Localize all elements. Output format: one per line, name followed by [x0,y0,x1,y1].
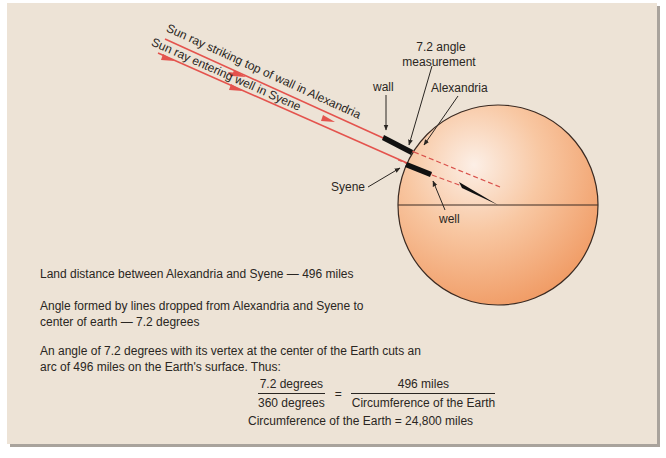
circumference-result: Circumference of the Earth = 24,800 mile… [248,414,473,429]
wall-bar [382,135,413,155]
land-distance-text: Land distance between Alexandria and Sye… [40,267,354,283]
alexandria-label: Alexandria [431,81,488,96]
arc-text: An angle of 7.2 degrees with its vertex … [40,344,421,375]
syene-label: Syene [331,180,365,195]
right-fraction: 496 miles Circumference of the Earth [350,377,497,410]
angle-measurement-label: 7.2 angle measurement [406,40,476,70]
proportion-equation: 7.2 degrees 360 degrees = 496 miles Circ… [256,377,497,410]
well-label: well [439,212,460,227]
angle-text: Angle formed by lines dropped from Alexa… [40,299,364,330]
left-fraction: 7.2 degrees 360 degrees [256,377,327,410]
syene-callout-arrow [368,168,400,187]
wall-label: wall [373,80,394,95]
